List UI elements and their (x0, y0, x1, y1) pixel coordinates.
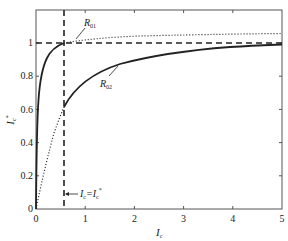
x-tick-label: 4 (230, 213, 235, 224)
y-axis-label: Ic* (4, 115, 17, 125)
x-tick-label: 3 (181, 213, 186, 224)
x-tick-label: 1 (83, 213, 88, 224)
y-tick-label: 0.8 (21, 70, 34, 81)
y-tick-label: 0.4 (21, 137, 34, 148)
x-tick-label: 0 (34, 213, 39, 224)
y-ticks (36, 43, 282, 176)
arrow-head-icon (65, 192, 69, 196)
x-tick-label: 5 (280, 213, 285, 224)
x-tick-label: 2 (132, 213, 137, 224)
y-tick-label: 0.6 (21, 104, 34, 115)
r02-curve-solid (64, 45, 282, 108)
r01-pointer (76, 28, 85, 39)
r01-curve-dotted (64, 34, 282, 44)
r02-curve-dotted (36, 107, 64, 209)
plot-frame (36, 10, 282, 209)
r01-curve-solid (36, 43, 64, 209)
y-tick-label: 0 (28, 203, 33, 214)
svg-text:Ic*: Ic* (4, 115, 17, 125)
y-tick-label: 0.2 (21, 170, 34, 181)
y-tick-label: 1 (28, 37, 33, 48)
equality-label: Ic=Ic* (79, 187, 102, 200)
r02-label: R02 (99, 78, 112, 90)
x-ticks (85, 10, 233, 209)
r01-label: R01 (83, 17, 96, 29)
chart: 0 1 2 3 4 5 0 0.2 0.4 0.6 0.8 1 Ic Ic* R… (0, 0, 288, 241)
x-axis-label: Ic (155, 226, 163, 239)
